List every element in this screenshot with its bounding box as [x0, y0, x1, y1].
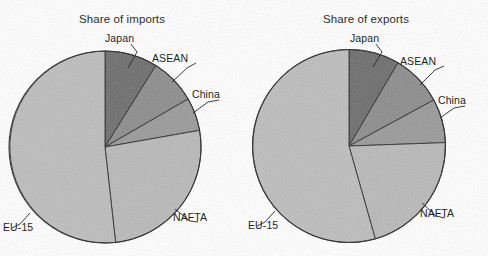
- pie-label-japan: Japan: [350, 32, 379, 44]
- leader-line-china: [193, 100, 219, 113]
- pie-slice-nafta[interactable]: [105, 130, 201, 242]
- pie-label-asean: ASEAN: [400, 55, 436, 67]
- pie-slice-eu15[interactable]: [10, 51, 116, 243]
- pie-label-asean: ASEAN: [152, 52, 188, 64]
- chart-exports: Share of exports Japan ASEAN China NAFTA: [244, 0, 488, 256]
- pie-chart-figure: Share of imports: [0, 0, 488, 256]
- chart-imports: Share of imports: [0, 0, 244, 256]
- pie-label-nafta: NAFTA: [420, 207, 454, 219]
- leader-line-asean: [172, 63, 196, 82]
- leader-line-asean: [420, 66, 444, 85]
- pie-label-eu15: EU-15: [248, 219, 278, 231]
- pie-label-eu15: EU-15: [3, 221, 33, 233]
- pie-label-nafta: NAFTA: [173, 211, 207, 223]
- pie-label-china: China: [438, 94, 466, 106]
- pie-label-japan: Japan: [105, 32, 134, 44]
- pie-label-china: China: [192, 88, 220, 100]
- leader-line-china: [440, 106, 465, 118]
